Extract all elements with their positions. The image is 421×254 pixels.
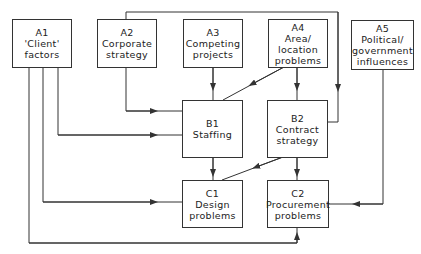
node-label: factors (25, 49, 60, 60)
node-label: location (278, 44, 318, 55)
node-label: A5 (376, 23, 389, 34)
node-a2-corporate-strategy: A2 Corporate strategy (97, 19, 157, 68)
node-label: Design (195, 199, 230, 210)
node-label: government (352, 45, 413, 56)
node-label: strategy (276, 135, 318, 146)
edge-a1-b1 (58, 67, 182, 135)
node-b2-contract-strategy: B2 Contract strategy (267, 100, 328, 158)
node-label: problems (189, 210, 236, 221)
node-label: Staffing (193, 129, 232, 140)
edge-a1-c2 (29, 67, 297, 243)
node-label: B2 (291, 113, 304, 124)
node-label: 'Client' (24, 38, 59, 49)
node-c2-procurement-problems: C2 Procurement problems (267, 180, 329, 228)
node-label: problems (275, 210, 322, 221)
node-b1-staffing: B1 Staffing (182, 100, 243, 158)
node-label: strategy (106, 49, 148, 60)
node-a1-client-factors: A1 'Client' factors (12, 19, 72, 68)
node-a5-political-government-influences: A5 Political/ government influences (351, 20, 414, 70)
node-label: Procurement (266, 199, 330, 210)
edge-a2-b1 (126, 67, 182, 111)
node-label: C1 (206, 188, 219, 199)
node-label: Corporate (102, 38, 152, 49)
node-label: influences (357, 56, 409, 67)
node-label: A3 (206, 27, 219, 38)
node-label: A2 (120, 27, 133, 38)
node-c1-design-problems: C1 Design problems (182, 180, 243, 228)
node-a3-competing-projects: A3 Competing projects (183, 19, 243, 68)
node-label: problems (275, 55, 322, 66)
node-label: A1 (35, 27, 48, 38)
node-label: Competing (186, 38, 241, 49)
node-label: projects (193, 49, 233, 60)
node-label: Contract (276, 124, 319, 135)
node-label: A4 (291, 22, 304, 33)
node-label: B1 (206, 118, 219, 129)
node-label: C2 (291, 188, 304, 199)
node-a4-area-location-problems: A4 Area/ location problems (268, 19, 328, 68)
node-label: Area/ (285, 33, 312, 44)
node-label: Political/ (361, 34, 404, 45)
edge-a5-c2 (328, 69, 383, 204)
